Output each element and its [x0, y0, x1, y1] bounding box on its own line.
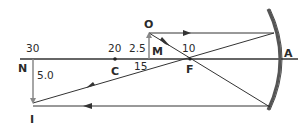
mirror-ray-diagram: O I C F A M N 30 20 2.5 15 10 5.0 — [0, 0, 303, 131]
center-point — [113, 57, 117, 61]
label-object-base: M — [152, 45, 163, 58]
label-image: I — [30, 113, 34, 126]
label-focus: F — [186, 63, 194, 76]
ray-arrowhead — [183, 30, 191, 36]
object-distance-value: 15 — [134, 60, 147, 72]
ray-arrowhead — [86, 82, 95, 88]
ray-reflected-through-focus — [33, 33, 274, 103]
center-distance-value: 20 — [108, 42, 121, 54]
focal-distance-value: 10 — [182, 42, 195, 54]
object-height-value: 2.5 — [129, 42, 146, 54]
ray-arrowhead — [83, 103, 92, 109]
label-center: C — [111, 65, 119, 78]
label-vertex: A — [284, 47, 293, 60]
focal-point — [188, 57, 191, 60]
label-image-base: N — [18, 62, 27, 75]
image-height-value: 5.0 — [37, 69, 54, 81]
label-object: O — [144, 18, 153, 31]
image-distance-value: 30 — [26, 42, 39, 54]
image-arrowhead-icon — [30, 98, 36, 104]
